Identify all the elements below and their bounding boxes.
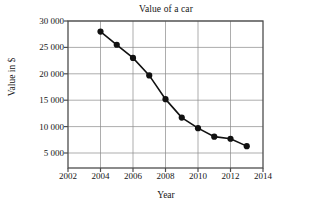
chart-figure: Value of a car Value in $ Year 30 000 25… (0, 0, 312, 212)
data-point-2008 (162, 96, 168, 102)
data-point-2004 (97, 28, 103, 34)
data-point-2010 (195, 125, 201, 131)
plot-area (0, 0, 312, 212)
data-point-2009 (179, 115, 185, 121)
data-point-2006 (130, 55, 136, 61)
data-point-2007 (146, 72, 152, 78)
data-point-2013 (244, 143, 250, 149)
data-point-2012 (227, 136, 233, 142)
data-series-markers (97, 28, 249, 149)
data-series-line (101, 32, 247, 147)
data-point-2011 (211, 134, 217, 140)
data-point-2005 (114, 42, 120, 48)
vertical-gridlines (101, 21, 231, 168)
